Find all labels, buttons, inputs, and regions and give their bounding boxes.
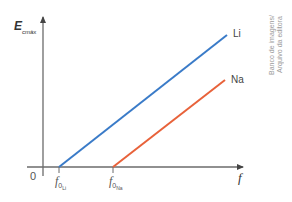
x-axis-label: f <box>238 170 242 186</box>
origin-label: 0 <box>30 170 36 182</box>
series-label-na: Na <box>231 74 244 85</box>
image-credit: Banco de imagens/ Arquivo da editora <box>268 4 284 86</box>
chart-canvas <box>0 0 292 202</box>
series-label-li: Li <box>233 28 241 39</box>
series-line-li <box>59 35 227 167</box>
series-line-na <box>113 80 225 167</box>
y-axis-label: Ecmáx <box>14 19 36 35</box>
tick-label-f0na: f0Na <box>109 174 123 191</box>
tick-label-f0li: f0Li <box>55 174 66 191</box>
